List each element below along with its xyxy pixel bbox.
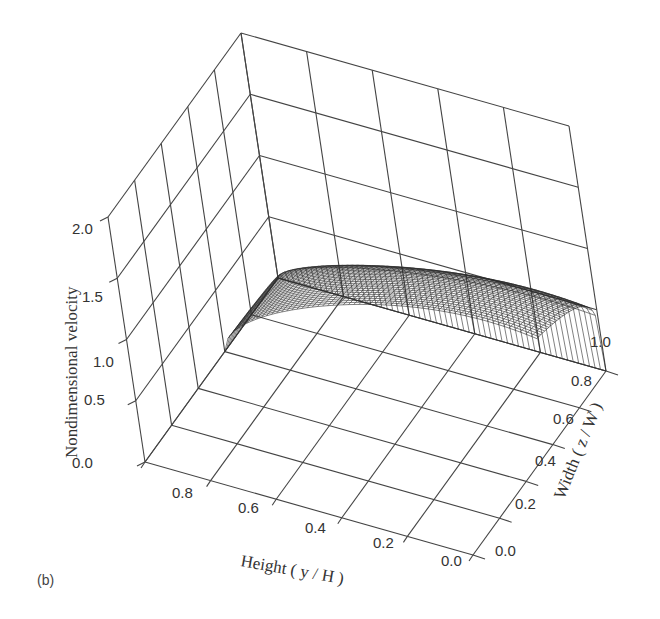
height-tick-label: 0.6 xyxy=(238,499,259,516)
z-tick-label: 1.0 xyxy=(93,353,114,370)
grid-line xyxy=(108,33,241,217)
grid-line xyxy=(109,278,117,282)
width-tick-label: 0.8 xyxy=(571,372,592,389)
grid-line xyxy=(469,555,473,561)
z-tick-label: 1.5 xyxy=(82,288,103,305)
grid-line xyxy=(119,340,127,344)
height-tick-label: 0.2 xyxy=(373,534,394,551)
mesh-line xyxy=(227,302,539,349)
grid-line xyxy=(500,518,512,522)
grid-line xyxy=(342,334,475,518)
z-tick-label: 0.5 xyxy=(84,391,105,408)
grid-line xyxy=(207,481,211,487)
panel-label: (b) xyxy=(37,572,54,588)
grid-line xyxy=(606,371,618,375)
height-tick-latel: 0.0 xyxy=(441,552,462,569)
grid-line xyxy=(251,315,579,408)
grid-line xyxy=(276,315,409,499)
z-axis-title: Nondimensional velocity xyxy=(62,286,81,458)
grid-line xyxy=(225,352,553,445)
grid-line xyxy=(473,555,485,559)
width-tick-label: 0.6 xyxy=(553,410,574,427)
grid-line xyxy=(338,518,342,524)
surface-plot: 0.0 0.5 1.0 1.5 2.0 0.8 0.6 0.4 0.2 0.0 … xyxy=(0,0,660,619)
grid-line xyxy=(136,217,269,401)
grid-line xyxy=(211,297,344,481)
mesh-line xyxy=(225,304,537,351)
grid-line xyxy=(127,156,260,340)
width-tick-label: 0.0 xyxy=(495,542,516,559)
grid-line xyxy=(100,217,108,221)
grid-line xyxy=(526,481,538,485)
grid-line xyxy=(128,401,136,405)
grid-line xyxy=(241,33,569,126)
height-axis-title: Height ( y / H ) xyxy=(239,551,345,588)
z-tick-label: 2.0 xyxy=(72,220,93,237)
height-tick-label: 0.8 xyxy=(172,484,193,501)
width-tick-label: 0.4 xyxy=(535,452,556,469)
grid-line xyxy=(117,94,250,278)
grid-line xyxy=(172,425,500,518)
height-tick-label: 0.4 xyxy=(305,519,326,536)
grid-line xyxy=(145,462,473,555)
grid-line xyxy=(198,388,526,481)
grid-line xyxy=(553,445,565,449)
grid-line xyxy=(272,499,276,505)
width-tick-label: 1.0 xyxy=(590,333,611,350)
grid-line xyxy=(260,156,588,249)
width-tick-label: 0.2 xyxy=(515,495,536,512)
grid-line xyxy=(403,536,407,542)
grid-line xyxy=(250,94,578,187)
